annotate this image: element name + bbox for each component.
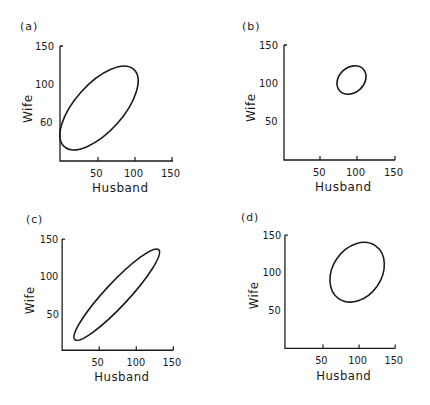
panel-label: (a) [20, 20, 38, 33]
ellipse-b [331, 60, 372, 100]
panel-label: (c) [26, 213, 43, 226]
x-tick-50: 50 [313, 167, 326, 178]
y-axis-label: Wife [21, 94, 35, 123]
ellipse-c [66, 242, 167, 348]
chart-a: (a) 150 100 60 50 100 150 Husband Wife [0, 0, 215, 200]
axes [285, 235, 395, 348]
axes [62, 239, 173, 350]
y-tick-60: 60 [40, 117, 53, 128]
x-tick-100: 100 [127, 357, 146, 368]
y-tick-150: 150 [263, 230, 282, 241]
y-tick-50: 50 [47, 309, 59, 320]
y-tick-100: 100 [35, 79, 54, 90]
y-axis-label: Wife [23, 286, 37, 314]
x-tick-100: 100 [124, 168, 143, 179]
y-axis-label: Wife [247, 281, 261, 309]
ellipse-d [319, 232, 396, 313]
y-tick-100: 100 [40, 271, 59, 282]
y-tick-150: 150 [35, 41, 54, 52]
x-tick-150: 150 [163, 357, 182, 368]
x-tick-50: 50 [91, 357, 103, 368]
y-tick-100: 100 [259, 78, 278, 89]
y-tick-150: 150 [259, 40, 278, 51]
x-tick-50: 50 [315, 355, 327, 366]
x-axis-label: Husband [94, 370, 149, 384]
panel-label: (d) [241, 211, 259, 224]
panel-label: (b) [242, 20, 261, 33]
x-tick-100: 100 [346, 167, 365, 178]
axes [60, 46, 173, 161]
ellipse-a [46, 53, 151, 162]
chart-c: (c) 150 100 50 50 100 150 Husband Wife [0, 200, 215, 400]
x-axis-label: Husband [92, 181, 149, 195]
x-axis-label: Husband [316, 369, 371, 383]
y-axis-label: Wife [244, 93, 258, 122]
panel-d: (d) 150 100 50 50 100 150 Husband Wife [215, 200, 430, 400]
chart-b: (b) 150 100 50 50 100 150 Husband Wife [215, 0, 430, 200]
y-tick-100: 100 [263, 267, 282, 278]
x-axis-label: Husband [315, 180, 372, 194]
x-tick-150: 150 [161, 168, 180, 179]
panel-c: (c) 150 100 50 50 100 150 Husband Wife [0, 200, 215, 400]
axes [284, 45, 395, 160]
y-tick-150: 150 [40, 234, 59, 245]
panel-a: (a) 150 100 60 50 100 150 Husband Wife [0, 0, 215, 200]
panel-b: (b) 150 100 50 50 100 150 Husband Wife [215, 0, 430, 200]
x-tick-100: 100 [348, 355, 367, 366]
y-tick-50: 50 [265, 116, 278, 127]
x-tick-150: 150 [384, 355, 403, 366]
y-tick-50: 50 [268, 305, 280, 316]
x-tick-150: 150 [384, 167, 403, 178]
chart-d: (d) 150 100 50 50 100 150 Husband Wife [215, 200, 430, 400]
x-tick-50: 50 [90, 168, 103, 179]
